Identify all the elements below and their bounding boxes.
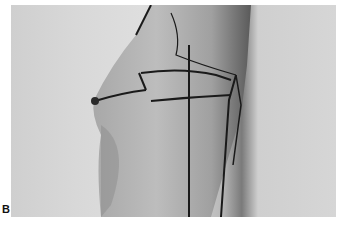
panel-label: B xyxy=(2,203,10,215)
clinical-photo xyxy=(11,5,336,217)
photo-illustration xyxy=(11,5,336,217)
